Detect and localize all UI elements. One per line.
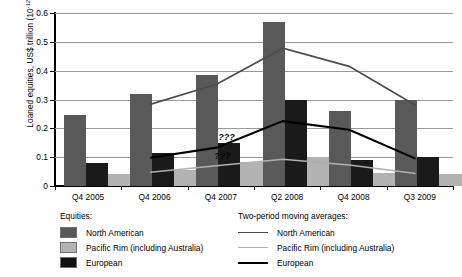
x-axis-tick-label: Q2 2008 [254, 192, 320, 202]
bar [329, 111, 351, 186]
bar [130, 94, 152, 186]
legend-item-label: North American [277, 228, 335, 238]
bar [439, 174, 461, 186]
bar-group [55, 13, 121, 186]
annotation-question-marks: ??? [214, 151, 231, 161]
legend-line-glyph [238, 232, 268, 233]
chart-legend: Equities: North AmericanPacific Rim (inc… [0, 205, 462, 277]
legend-item[interactable]: North American [60, 225, 203, 240]
legend-swatch-icon [60, 242, 77, 253]
legend-item-label: European [277, 258, 313, 268]
legend-line-swatch-icon [238, 228, 268, 237]
y-axis-tick-label: 0.2 [0, 124, 48, 132]
legend-line-swatch-icon [238, 258, 268, 267]
legend-line-glyph [238, 262, 268, 264]
legend-line-swatch-icon [238, 243, 268, 252]
y-axis-tick-label: 0.6 [0, 9, 48, 17]
bar [395, 100, 417, 187]
x-axis-tick-label: Q4 2008 [320, 192, 386, 202]
legend-bars-title: Equities: [60, 211, 203, 221]
legend-item-label: Pacific Rim (including Australia) [277, 243, 394, 253]
bar [285, 100, 307, 187]
x-axis-tick-mark [55, 186, 56, 190]
x-axis-tick-label: Q4 2007 [188, 192, 254, 202]
legend-lines-title: Two-period moving averages: [238, 211, 394, 221]
legend-item-label: North American [86, 228, 144, 238]
x-axis-tick-mark [387, 186, 388, 190]
legend-item[interactable]: Pacific Rim (including Australia) [238, 240, 394, 255]
legend-item[interactable]: North American [238, 225, 394, 240]
x-axis-tick-mark [254, 186, 255, 190]
legend-lines-items: North AmericanPacific Rim (including Aus… [238, 225, 394, 270]
plot-area [55, 13, 453, 186]
legend-line-glyph [238, 247, 268, 248]
legend-item-label: Pacific Rim (including Australia) [86, 243, 203, 253]
bar-group [387, 13, 453, 186]
bar [417, 157, 439, 186]
y-axis-tick-label: 0 [0, 182, 48, 190]
bar [196, 75, 218, 186]
bar [263, 22, 285, 186]
chart-plot-region: Loaned equities, US$ trillion (10-12) 00… [0, 0, 462, 205]
legend-item[interactable]: European [60, 255, 203, 270]
legend-bars-column: Equities: North AmericanPacific Rim (inc… [60, 211, 203, 270]
x-axis-tick-mark [320, 186, 321, 190]
chart-figure: Loaned equities, US$ trillion (10-12) 00… [0, 0, 462, 277]
legend-bars-items: North AmericanPacific Rim (including Aus… [60, 225, 203, 270]
legend-swatch-icon [60, 257, 77, 268]
bar [351, 160, 373, 186]
legend-swatch-icon [60, 227, 77, 238]
legend-item-label: European [86, 258, 122, 268]
bar-group [121, 13, 187, 186]
legend-item[interactable]: Pacific Rim (including Australia) [60, 240, 203, 255]
bar [218, 143, 240, 186]
annotation-question-marks: ??? [218, 132, 235, 142]
bar-group [254, 13, 320, 186]
y-axis-title-exponent: -12 [25, 0, 31, 8]
x-axis-tick-mark [121, 186, 122, 190]
y-axis-tick-label: 0.5 [0, 38, 48, 46]
bar-group [320, 13, 386, 186]
x-axis-tick-mark [188, 186, 189, 190]
bar [152, 153, 174, 186]
y-axis-tick-label: 0.3 [0, 96, 48, 104]
y-axis-tick-label: 0.4 [0, 67, 48, 75]
x-axis-tick-label: Q4 2006 [121, 192, 187, 202]
bar [86, 163, 108, 186]
legend-item[interactable]: European [238, 255, 394, 270]
bar [64, 115, 86, 186]
legend-lines-column: Two-period moving averages: North Americ… [238, 211, 394, 270]
y-axis-tick-label: 0.1 [0, 153, 48, 161]
x-axis-tick-label: Q3 2009 [387, 192, 453, 202]
x-axis-tick-label: Q4 2005 [55, 192, 121, 202]
x-axis-tick-mark [453, 186, 454, 190]
